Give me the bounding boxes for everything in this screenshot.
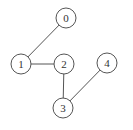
node-label: 1 (18, 58, 24, 70)
node-1: 1 (11, 54, 31, 74)
node-0: 0 (56, 8, 76, 28)
node-3: 3 (53, 98, 73, 118)
node-label: 4 (104, 57, 110, 69)
node-2: 2 (54, 54, 74, 74)
node-label: 2 (61, 58, 67, 70)
graph-diagram: 0 1 2 3 4 (0, 0, 133, 130)
node-4: 4 (97, 53, 117, 73)
node-label: 0 (63, 12, 69, 24)
node-label: 3 (60, 102, 66, 114)
